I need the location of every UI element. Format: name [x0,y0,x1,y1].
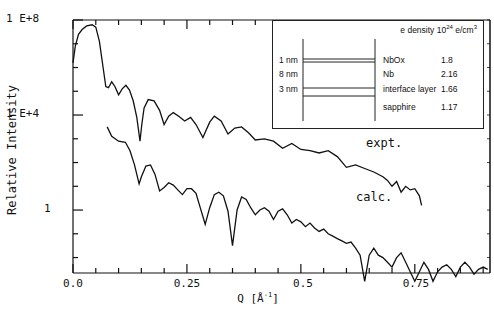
annotation-expt: expt. [366,136,402,150]
x-tick-label-0: 0.0 [63,277,83,290]
x-tick-label-075: 0.75 [403,277,430,290]
layer-thickness: 3 nm [279,84,298,94]
layer-name: sapphire [383,102,416,112]
layer-name: interface layer [383,84,436,94]
series-calc-line [107,127,488,281]
layer-name: NbOx [383,55,405,65]
layer-model-inset: e density 1024 e/cm3 1 nm NbOx 1.8 8 nm … [272,20,484,129]
y-axis-label: Relative Intensity [2,75,22,225]
y-tick-label-1: 1 [44,202,51,215]
y-tick-label-1e4: 1 E+4 [6,107,39,120]
layer-density: 2.16 [441,69,458,79]
x-tick-label-025: 0.25 [174,277,201,290]
x-axis-label-close: ] [272,292,279,305]
layer-thickness: 8 nm [279,69,298,79]
x-tick-label-05: 0.5 [293,277,313,290]
x-axis-label-exponent: -1 [264,291,272,299]
layer-density: 1.17 [441,102,458,112]
layer-row-interface: 3 nm interface layer 1.66 [273,84,483,95]
x-axis-label: Q [Å-1] [237,291,279,305]
layer-row-sapphire: sapphire 1.17 [273,102,483,113]
layer-thickness: 1 nm [279,55,298,65]
x-axis-label-text: Q [Å [237,292,264,305]
y-axis-label-text: Relative Intensity [5,85,19,215]
layer-row-nbox: 1 nm NbOx 1.8 [273,55,483,66]
y-tick-label-1e8: 1 E+8 [6,12,39,25]
annotation-calc: calc. [356,190,392,204]
layer-density: 1.8 [441,55,453,65]
layer-row-nb: 8 nm Nb 2.16 [273,69,483,80]
layer-name: Nb [383,69,394,79]
layer-density: 1.66 [441,84,458,94]
